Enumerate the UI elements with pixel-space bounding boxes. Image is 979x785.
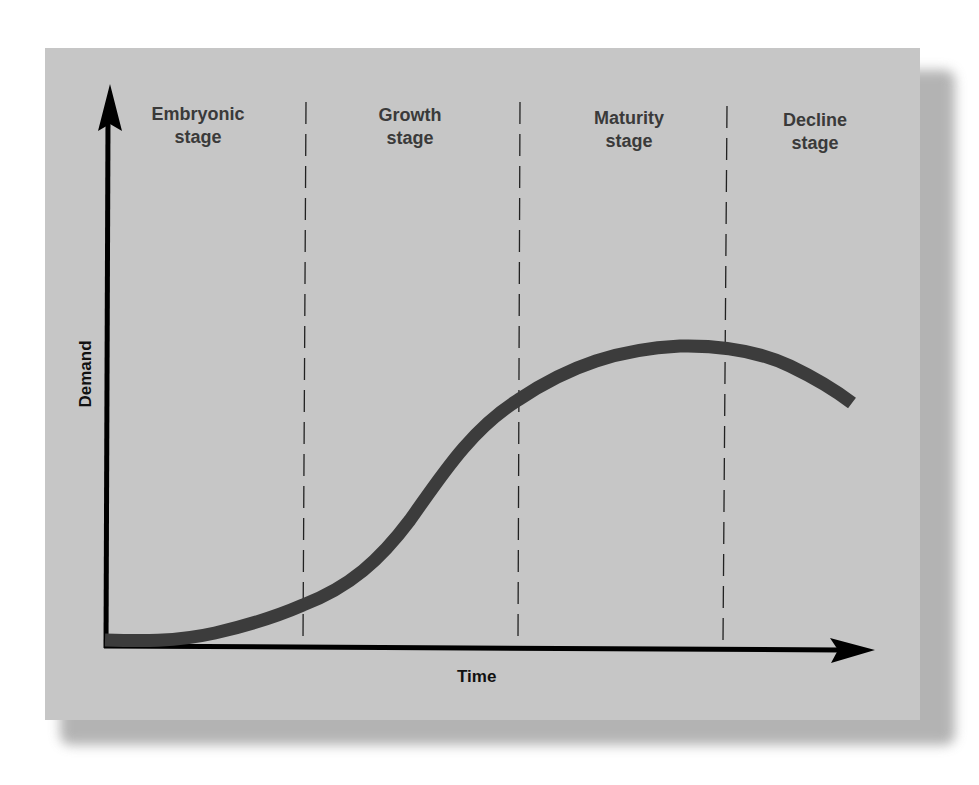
stage-label-growth: Growth stage [330, 104, 490, 150]
demand-curve [105, 346, 852, 641]
stage-label-decline: Decline stage [735, 109, 895, 155]
stage-divider-1 [303, 102, 306, 640]
y-axis-label: Demand [76, 339, 96, 409]
stage-divider-2 [518, 102, 520, 640]
stage-label-maturity: Maturity stage [549, 107, 709, 153]
x-axis-label: Time [457, 667, 496, 687]
x-axis [104, 646, 840, 650]
y-axis [106, 120, 108, 648]
stage-label-embryonic: Embryonic stage [118, 103, 278, 149]
stage-divider-3 [723, 106, 727, 642]
